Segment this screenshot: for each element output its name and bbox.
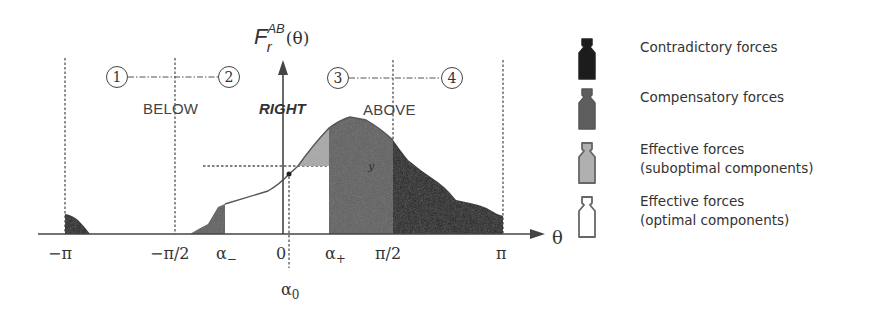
tick-pi: π (496, 244, 507, 263)
legend-label-contradictory: Contradictory forces (640, 38, 778, 57)
region-label-below: BELOW (143, 100, 198, 117)
y-label-superscript: AB (267, 21, 284, 36)
tick-alpha-plus: α+ (325, 244, 346, 263)
tick-neg-half-pi: −π/2 (150, 244, 190, 263)
legend-label-line: Effective forces (640, 140, 813, 159)
region-compensatory-left (190, 204, 225, 234)
legend-label-line: (suboptimal components) (640, 159, 813, 178)
quadrant-marker-2: 2 (218, 66, 240, 88)
alpha-zero-point (287, 172, 292, 177)
y-label-argument: (θ) (286, 28, 310, 48)
tick-alpha-zero-symbol: α (281, 280, 292, 299)
region-compensatory-main (329, 117, 393, 234)
y-marker: y (367, 160, 375, 173)
force-regions (65, 117, 503, 234)
legend-item-contradictory: Contradictory forces (570, 38, 870, 82)
weight-white-icon (575, 196, 599, 238)
legend-label-line: Effective forces (640, 192, 789, 211)
tick-alpha-zero-sub: 0 (292, 288, 300, 302)
y-label-main: F (254, 24, 267, 49)
tick-zero: 0 (276, 244, 286, 263)
y-axis-arrow (278, 60, 288, 75)
tick-alpha-zero: α0 (281, 280, 299, 299)
tick-alpha-minus-symbol: α (216, 244, 227, 263)
legend-item-optimal: Effective forces (optimal components) (570, 196, 870, 240)
weight-black-icon (575, 38, 599, 80)
legend-label-line: Contradictory forces (640, 38, 778, 57)
guide-lines (65, 58, 503, 268)
tick-neg-pi: −π (48, 244, 72, 263)
region-label-above: ABOVE (363, 101, 416, 118)
legend-label-optimal: Effective forces (optimal components) (640, 192, 789, 230)
region-label-right: RIGHT (259, 100, 306, 117)
y-label-subscript: r (267, 38, 272, 55)
legend-label-line: Compensatory forces (640, 88, 784, 107)
region-contradictory-left (65, 214, 90, 234)
legend-label-compensatory: Compensatory forces (640, 88, 784, 107)
tick-alpha-plus-symbol: α (325, 244, 336, 263)
quadrant-marker-1: 1 (106, 66, 128, 88)
tick-alpha-plus-sub: + (336, 252, 346, 266)
tick-alpha-minus-sub: − (227, 252, 237, 266)
legend-item-suboptimal: Effective forces (suboptimal components) (570, 142, 870, 186)
tick-alpha-minus: α− (216, 244, 237, 263)
weight-light-gray-icon (575, 142, 599, 184)
weight-dark-gray-icon (575, 88, 599, 130)
x-axis-arrow (530, 229, 545, 239)
region-contradictory-main (393, 140, 503, 234)
legend-label-suboptimal: Effective forces (suboptimal components) (640, 140, 813, 178)
tick-half-pi: π/2 (375, 244, 401, 263)
quadrant-marker-3: 3 (327, 67, 349, 89)
y-axis-label: FABr(θ) (254, 24, 309, 53)
quadrant-marker-4: 4 (441, 67, 463, 89)
legend-label-line: (optimal components) (640, 211, 789, 230)
legend-item-compensatory: Compensatory forces (570, 88, 870, 132)
x-axis-label: θ (552, 227, 563, 248)
